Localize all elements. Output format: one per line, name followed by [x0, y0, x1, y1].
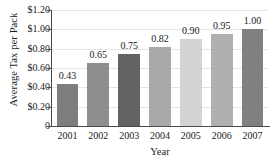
bar-value-label: 1.00	[244, 16, 262, 26]
y-axis-tick-labels: $1.20$1.00$0.80$0.60$0.40$0.200	[14, 10, 50, 126]
bar[interactable]	[211, 34, 233, 126]
bar[interactable]	[87, 63, 109, 126]
bar-chart: Average Tax per Pack $1.20$1.00$0.80$0.6…	[0, 0, 274, 163]
y-axis-tick-label: $1.20	[14, 5, 50, 15]
x-axis-tick-label: 2002	[83, 130, 114, 142]
bar-value-label: 0.82	[151, 34, 169, 44]
y-axis-tick-label: $0.20	[14, 102, 50, 112]
bar[interactable]	[180, 39, 202, 126]
bar-group[interactable]: 0.75	[118, 10, 140, 126]
bar-group[interactable]: 0.95	[211, 10, 233, 126]
y-axis-tick-mark	[47, 29, 52, 30]
bar[interactable]	[118, 54, 140, 127]
bar-group[interactable]: 0.65	[87, 10, 109, 126]
x-axis-tick-label: 2004	[145, 130, 176, 142]
bar-group[interactable]: 0.43	[57, 10, 79, 126]
bar-series: 0.430.650.750.820.900.951.00	[52, 10, 268, 126]
y-axis-tick-mark	[47, 49, 52, 50]
x-axis-tick-label: 2006	[206, 130, 237, 142]
y-axis-tick-label: $0.80	[14, 44, 50, 54]
bar-value-label: 0.43	[59, 71, 77, 81]
x-axis-tick-labels: 2001200220032004200520062007	[52, 130, 268, 144]
bar-value-label: 0.90	[182, 26, 200, 36]
y-axis-tick-mark	[47, 126, 52, 127]
bar-group[interactable]: 0.90	[180, 10, 202, 126]
y-axis-tick-mark	[47, 68, 52, 69]
y-axis-tick-mark	[47, 10, 52, 11]
bar[interactable]	[242, 29, 264, 126]
y-axis-tick-mark	[47, 107, 52, 108]
bar[interactable]	[149, 47, 171, 126]
bar[interactable]	[57, 84, 79, 126]
bar-group[interactable]: 0.82	[149, 10, 171, 126]
y-axis-tick-label: $1.00	[14, 24, 50, 34]
x-axis-tick-label: 2005	[175, 130, 206, 142]
bar-value-label: 0.95	[213, 21, 231, 31]
bar-value-label: 0.65	[90, 50, 108, 60]
x-axis-line	[48, 126, 270, 127]
y-axis-tick-label: $0.40	[14, 82, 50, 92]
y-axis-tick-label: 0	[14, 121, 50, 131]
y-axis-tick-mark	[47, 87, 52, 88]
y-axis-tick-label: $0.60	[14, 63, 50, 73]
plot-area: 0.430.650.750.820.900.951.00	[52, 10, 268, 126]
bar-value-label: 0.75	[120, 41, 138, 51]
bar-group[interactable]: 1.00	[242, 10, 264, 126]
x-axis-tick-label: 2003	[114, 130, 145, 142]
x-axis-tick-label: 2007	[237, 130, 268, 142]
x-axis-title: Year	[52, 146, 268, 158]
x-axis-tick-label: 2001	[52, 130, 83, 142]
